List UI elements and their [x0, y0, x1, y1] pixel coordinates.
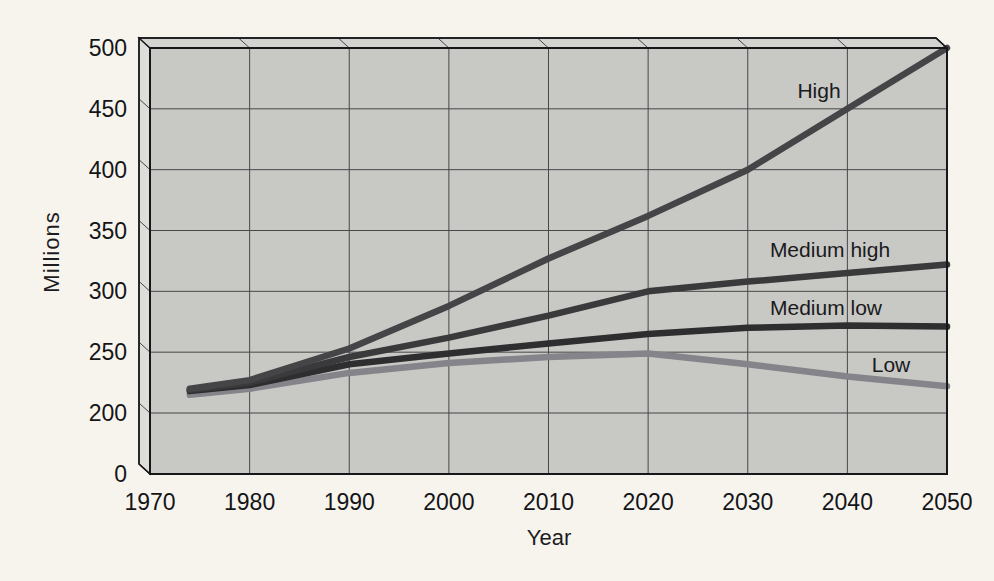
- y-tick-label-350: 350: [89, 218, 127, 244]
- y-tick-label-500: 500: [89, 35, 127, 61]
- x-axis-title: Year: [527, 525, 571, 551]
- x-tick-label-2050: 2050: [921, 489, 972, 515]
- figure-page: Millions 0200250300350400450500197019801…: [0, 0, 994, 581]
- series-label-high: High: [797, 79, 840, 102]
- y-tick-label-450: 450: [89, 96, 127, 122]
- y-tick-label-250: 250: [89, 339, 127, 365]
- x-tick-label-2010: 2010: [523, 489, 574, 515]
- x-tick-label-1990: 1990: [324, 489, 375, 515]
- x-tick-label-2000: 2000: [423, 489, 474, 515]
- y-tick-label-400: 400: [89, 157, 127, 183]
- x-tick-label-2040: 2040: [822, 489, 873, 515]
- population-projection-chart: 0200250300350400450500197019801990200020…: [0, 0, 994, 581]
- series-label-low: Low: [872, 353, 911, 376]
- y-tick-label-300: 300: [89, 278, 127, 304]
- x-tick-label-1970: 1970: [124, 489, 175, 515]
- series-label-medium-low: Medium low: [770, 296, 883, 319]
- series-label-medium-high: Medium high: [770, 238, 890, 261]
- x-tick-label-2030: 2030: [722, 489, 773, 515]
- x-tick-label-2020: 2020: [623, 489, 674, 515]
- y-tick-label-200: 200: [89, 400, 127, 426]
- x-tick-label-1980: 1980: [224, 489, 275, 515]
- y-tick-label-0: 0: [114, 461, 127, 487]
